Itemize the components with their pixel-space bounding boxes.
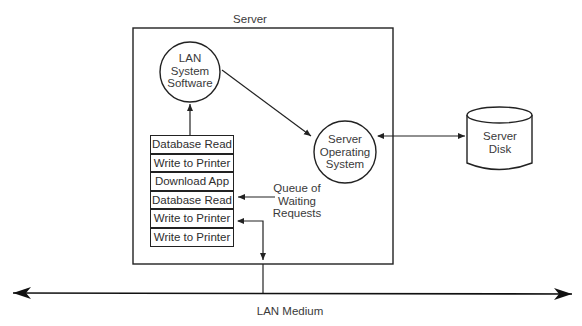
queue-label: Queue of Waiting Requests xyxy=(271,182,323,220)
server-disk-label: Server Disk xyxy=(470,130,530,155)
diagram-canvas xyxy=(0,0,582,326)
lan-to-os-arrow xyxy=(222,70,311,136)
server-os-label: Server Operating System xyxy=(314,133,376,171)
lan-medium-line xyxy=(13,293,572,294)
queue-item: Database Read xyxy=(150,191,234,210)
queue-item: Database Read xyxy=(150,135,234,154)
lan-system-software-label: LAN System Software xyxy=(160,52,220,90)
queue-item: Write to Printer xyxy=(150,228,234,247)
queue-item: Write to Printer xyxy=(150,209,234,228)
server-label: Server xyxy=(233,13,267,26)
queue-item: Write to Printer xyxy=(150,154,234,173)
queue-item: Download App xyxy=(150,172,234,191)
lan-medium-label: LAN Medium xyxy=(250,305,330,318)
lan-to-queue-connector xyxy=(238,221,263,260)
